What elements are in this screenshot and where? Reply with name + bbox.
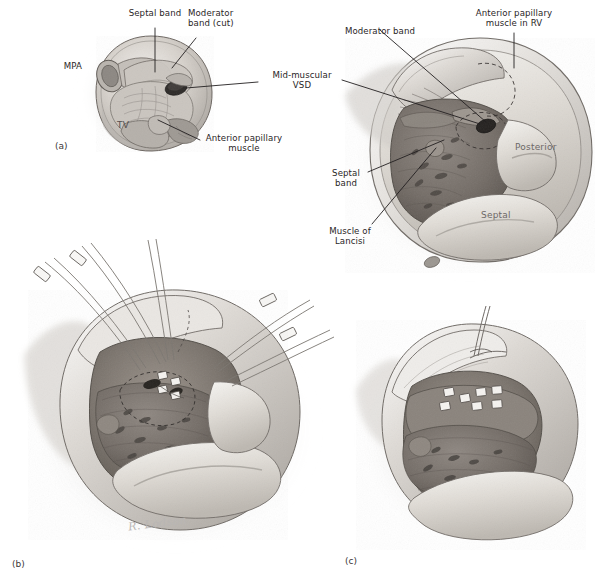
label-septal-band-a: Septal band [114, 8, 196, 18]
panel-tag-b: (b) [12, 559, 25, 569]
label-mpa: MPA [46, 61, 82, 71]
label-anterior-papillary-muscle: Anterior papillary muscle [196, 133, 292, 154]
label-muscle-of-lancisi: Muscle of Lancisi [320, 226, 380, 247]
label-mid-muscular-vsd: Mid-muscular VSD [260, 70, 344, 91]
panel-c-artwork [356, 306, 586, 550]
label-tv: TV [117, 120, 129, 130]
label-moderator-band: Moderator band [330, 26, 430, 36]
label-anterior-papillary-muscle-rv: Anterior papillary muscle in RV [462, 8, 566, 29]
surgical-figure: Septal band Moderator band (cut) MPA TV … [0, 0, 602, 582]
panel-tag-c: (c) [345, 556, 357, 566]
panel-b-artwork [24, 239, 334, 550]
label-septal-leaflet: Septal [481, 210, 511, 220]
label-septal-band-2: Septal band [322, 168, 370, 189]
panel-tag-a: (a) [55, 141, 68, 151]
panel-a-artwork [81, 36, 214, 153]
panel-top-right-artwork [345, 38, 595, 278]
label-moderator-band-cut: Moderator band (cut) [188, 8, 260, 29]
label-posterior-leaflet: Posterior [515, 142, 557, 152]
